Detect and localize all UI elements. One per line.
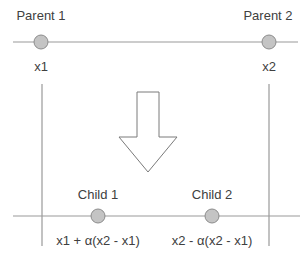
down-arrow-icon — [119, 92, 177, 172]
child-2-node — [205, 209, 219, 223]
child-2-formula: x2 - α(x2 - x1) — [172, 233, 252, 248]
child-2-label: Child 2 — [192, 187, 232, 202]
parent-1-value: x1 — [34, 59, 48, 74]
child-1-node — [91, 209, 105, 223]
parent-2-label: Parent 2 — [243, 8, 292, 23]
child-1-label: Child 1 — [78, 187, 118, 202]
parent-2-node — [262, 35, 276, 49]
parent-1-node — [34, 35, 48, 49]
parent-2-value: x2 — [262, 59, 276, 74]
child-1-formula: x1 + α(x2 - x1) — [56, 233, 140, 248]
parent-1-label: Parent 1 — [16, 8, 65, 23]
crossover-diagram: Parent 1 Parent 2 x1 x2 Child 1 Child 2 … — [0, 0, 306, 260]
